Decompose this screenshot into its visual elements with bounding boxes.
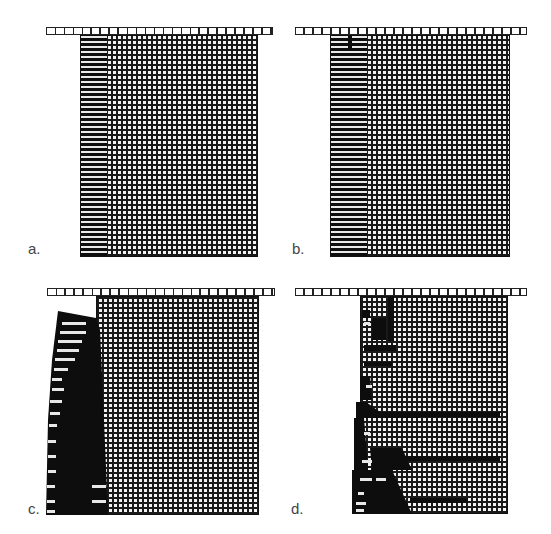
panel-label: d. [291,500,304,517]
failure-zone [0,0,551,534]
